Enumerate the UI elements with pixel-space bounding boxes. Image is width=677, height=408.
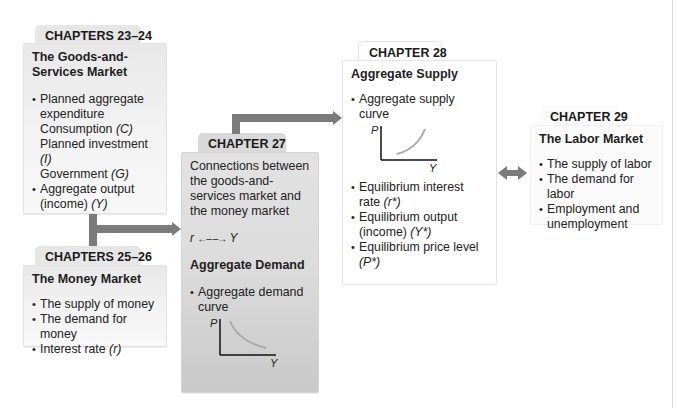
list-item: Planned aggregate expenditure	[32, 92, 158, 122]
list-item: Consumption (C)	[32, 122, 158, 137]
tab-chapters-25-26: CHAPTERS 25–26	[35, 246, 141, 266]
list-item: Equilibrium interest rate (r*)	[351, 180, 488, 210]
list-item: Equilibrium output (income) (Y*)	[351, 210, 488, 240]
item-list: The supply of labor The demand for labor…	[539, 157, 654, 232]
arrowhead-right-icon	[333, 111, 342, 125]
tab-label: CHAPTER 27	[208, 137, 286, 151]
list-item: Government (G)	[32, 167, 158, 182]
tab-label: CHAPTER 29	[550, 110, 628, 124]
box-aggregate-demand: Connections between the goods-and-servic…	[181, 152, 319, 393]
tab-chapters-23-24: CHAPTERS 23–24	[35, 25, 141, 45]
tab-chapter-29: CHAPTER 29	[540, 106, 620, 126]
aggregate-supply-mini-chart: P Y	[369, 124, 469, 174]
list-item: Aggregate demand curve	[190, 285, 310, 315]
svg-text:Y: Y	[429, 162, 437, 174]
list-item: The supply of labor	[539, 157, 654, 172]
box-goods-and-services-market: The Goods-and-Services Market Planned ag…	[23, 43, 167, 214]
item-list: Aggregate supply curve	[351, 92, 488, 122]
connector-horizontal-to-ch28	[232, 114, 334, 122]
bidirectional-dashed-arrow-icon: ←– –→	[197, 233, 226, 244]
page-edge-rule	[672, 0, 673, 408]
box-heading: The Goods-and-Services Market	[32, 50, 158, 80]
list-item: The demand for money	[32, 312, 158, 342]
box-labor-market: The Labor Market The supply of labor The…	[530, 125, 663, 225]
svg-text:P: P	[371, 124, 379, 136]
svg-text:P: P	[210, 317, 218, 329]
connector-horizontal-to-ch27	[89, 225, 173, 233]
box-heading: Aggregate Demand	[190, 258, 310, 273]
list-item: Equilibrium price level (P*)	[351, 240, 488, 270]
double-arrow-right-head-icon	[518, 166, 527, 180]
item-list: The supply of money The demand for money…	[32, 297, 158, 357]
list-item: Planned investment (I)	[32, 137, 158, 167]
box-money-market: The Money Market The supply of money The…	[23, 265, 167, 347]
tab-label: CHAPTERS 25–26	[45, 250, 152, 264]
ad-curve-icon: P Y	[208, 317, 308, 369]
list-item: The demand for labor	[539, 172, 654, 202]
box-heading: Aggregate Supply	[351, 67, 488, 82]
box-aggregate-supply: Aggregate Supply Aggregate supply curve …	[342, 60, 497, 285]
box-heading: The Money Market	[32, 272, 158, 287]
list-item: Aggregate output (income) (Y)	[32, 182, 158, 212]
tab-label: CHAPTER 28	[369, 46, 447, 60]
item-list: Aggregate demand curve	[190, 285, 310, 315]
tab-label: CHAPTERS 23–24	[45, 29, 152, 43]
item-list: Planned aggregate expenditure Consumptio…	[32, 92, 158, 212]
tab-chapter-27: CHAPTER 27	[198, 133, 286, 153]
tab-chapter-28: CHAPTER 28	[358, 41, 442, 61]
list-item: Aggregate supply curve	[351, 92, 488, 122]
list-item: Employment and unemployment	[539, 202, 654, 232]
as-curve-icon: P Y	[369, 124, 469, 174]
box-intro-text: Connections between the goods-and-servic…	[190, 159, 310, 219]
equilibrium-list: Equilibrium interest rate (r*) Equilibri…	[351, 180, 488, 270]
arrowhead-right-icon	[172, 222, 181, 236]
list-item: Interest rate (r)	[32, 342, 158, 357]
svg-text:Y: Y	[270, 357, 278, 369]
relation-r-y: r ←– –→ Y	[190, 231, 310, 246]
list-item: The supply of money	[32, 297, 158, 312]
aggregate-demand-mini-chart: P Y	[208, 317, 308, 369]
box-heading: The Labor Market	[539, 132, 654, 147]
